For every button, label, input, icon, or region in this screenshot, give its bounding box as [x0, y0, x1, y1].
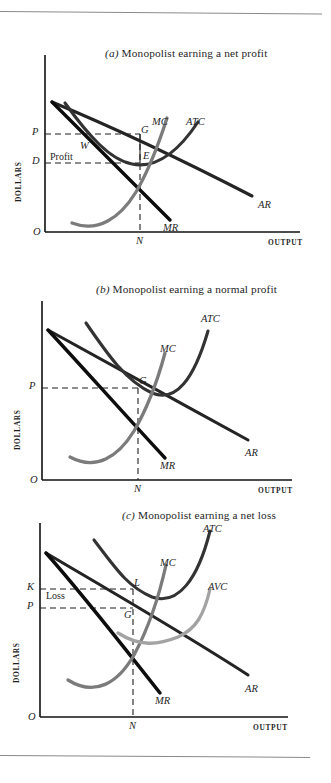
panel-c-plot [0, 505, 331, 750]
panel-c-xtick-n: N [129, 720, 136, 731]
panel-c-label-mc: MC [160, 557, 176, 568]
panel-c-ytick-k: K [27, 581, 34, 592]
panel-a-label-mr: MR [163, 222, 178, 233]
panel-a-caption-text: Monopolist earning a net profit [122, 47, 268, 59]
panel-a-y-axis-label: DOLLARS [14, 161, 23, 202]
panel-c-y-axis-label: DOLLARS [12, 642, 21, 683]
panel-c-label-atc: ATC [203, 523, 222, 534]
panel-a-ytick-p: P [32, 126, 38, 137]
panel-a-ytick-d: D [32, 155, 40, 166]
page-rule-top [0, 11, 322, 15]
panel-b-caption-text: Monopolist earning a normal profit [113, 283, 277, 295]
panel-c-label-ar: AR [245, 683, 258, 694]
panel-c-point-l: L [134, 577, 140, 588]
panel-b: (b) Monopolist earning a normal profit D… [0, 275, 331, 510]
dashed-guides [42, 388, 138, 480]
panel-a-point-w: W [80, 140, 89, 151]
panel-b-point-g: G [139, 375, 147, 386]
panel-c-ytick-p: P [27, 600, 33, 611]
panel-b-label-mc: MC [160, 343, 176, 354]
panel-b-caption-tag: (b) [96, 283, 110, 295]
panel-a: (a) Monopolist earning a net profit DOLL… [0, 30, 331, 265]
panel-a-label-atc: ATC [186, 116, 205, 127]
panel-a-point-e: E [143, 150, 149, 161]
page-rule-bottom [0, 755, 310, 758]
figure-page: (a) Monopolist earning a net profit DOLL… [0, 0, 331, 783]
panel-a-area-profit: Profit [50, 151, 73, 162]
panel-c-caption-text: Monopolist earning a net loss [138, 509, 276, 521]
panel-b-origin-label: O [30, 474, 38, 485]
panel-b-ytick-p: P [29, 380, 35, 391]
panel-b-label-mr: MR [160, 460, 175, 471]
dashed-guides [40, 589, 133, 717]
ar-curve [48, 330, 248, 440]
panel-a-caption-tag: (a) [105, 47, 119, 59]
panel-a-x-axis-label: OUTPUT [268, 238, 303, 247]
panel-a-xtick-n: N [136, 235, 143, 246]
panel-a-caption: (a) Monopolist earning a net profit [105, 47, 267, 59]
panel-b-caption: (b) Monopolist earning a normal profit [96, 283, 277, 295]
panel-c-x-axis-label: OUTPUT [253, 723, 288, 732]
panel-c-label-avc: AVC [208, 581, 227, 592]
mr-curve [46, 553, 160, 693]
panel-c-origin-label: O [28, 711, 36, 722]
panel-b-xtick-n: N [134, 483, 141, 494]
panel-c-area-loss: Loss [46, 590, 65, 601]
dashed-guides [45, 134, 140, 232]
panel-c-caption: (c) Monopolist earning a net loss [122, 509, 276, 521]
panel-b-plot [0, 275, 331, 510]
panel-c-caption-tag: (c) [122, 509, 135, 521]
panel-b-x-axis-label: OUTPUT [258, 486, 293, 495]
panel-c-label-mr: MR [155, 695, 170, 706]
ar-curve [46, 553, 248, 675]
panel-a-origin-label: O [33, 226, 41, 237]
panel-a-label-mc: MC [152, 116, 168, 127]
panel-a-label-ar: AR [258, 199, 271, 210]
panel-b-label-ar: AR [245, 447, 258, 458]
panel-b-label-atc: ATC [201, 313, 220, 324]
panel-b-y-axis-label: DOLLARS [13, 409, 22, 450]
panel-c: (c) Monopolist earning a net loss DOLLAR… [0, 505, 331, 750]
panel-a-point-g: G [141, 124, 149, 135]
panel-c-point-g: G [124, 609, 132, 620]
mc-curve [68, 565, 166, 687]
